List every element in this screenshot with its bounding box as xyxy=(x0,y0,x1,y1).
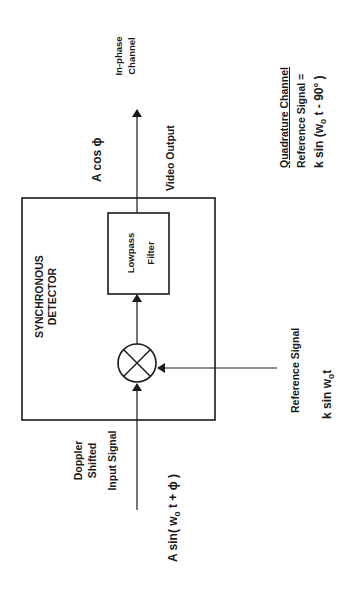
filter-label-line2: Filter xyxy=(141,225,161,281)
reference-formula-sub: o xyxy=(326,374,336,379)
quadrature-formula-sub: o xyxy=(318,119,328,124)
mixer-icon xyxy=(118,344,156,382)
video-output-label: Video Output xyxy=(164,125,177,191)
in-phase-channel-label: In-phase Channel xyxy=(112,30,138,82)
output-formula-text: A cos ϕ xyxy=(90,137,104,182)
output-formula: A cos ϕ xyxy=(90,137,105,182)
reference-signal-label: Reference Signal xyxy=(289,328,302,413)
input-signal-label: Doppler Shifted Input Signal xyxy=(71,403,119,518)
in-phase-line1: In-phase xyxy=(112,30,125,82)
quadrature-reference-line: Reference Signal = xyxy=(293,67,310,168)
reference-signal-text: Reference Signal xyxy=(289,328,301,413)
input-formula-sub: o xyxy=(172,511,182,516)
quadrature-channel-block: Quadrature Channel Reference Signal = k … xyxy=(276,67,332,168)
reference-formula: k sin wot xyxy=(320,370,336,419)
input-label-line3: Input Signal xyxy=(105,403,119,518)
quadrature-formula: k sin (wo t - 90° ) xyxy=(311,67,332,168)
quadrature-title: Quadrature Channel xyxy=(276,67,293,168)
input-label-line1: Doppler xyxy=(71,403,85,518)
video-output-text: Video Output xyxy=(164,125,176,191)
reference-formula-suffix: t xyxy=(320,370,334,374)
quadrature-formula-suffix: t - 90° ) xyxy=(312,75,326,118)
quadrature-formula-prefix: k sin (w xyxy=(312,124,326,168)
input-formula-suffix: t + ϕ ) xyxy=(166,474,180,511)
reference-formula-prefix: k sin w xyxy=(320,379,334,419)
input-formula-prefix: A sin( w xyxy=(166,516,180,562)
detector-title-line2: DETECTOR xyxy=(46,255,59,338)
filter-label: Lowpass Filter xyxy=(121,225,161,281)
detector-title: SYNCHRONOUS DETECTOR xyxy=(33,255,59,338)
filter-label-line1: Lowpass xyxy=(121,225,141,281)
input-signal-formula: A sin( wo t + ϕ ) xyxy=(166,474,182,562)
detector-title-line1: SYNCHRONOUS xyxy=(33,255,46,338)
input-label-line2: Shifted xyxy=(85,403,99,518)
in-phase-line2: Channel xyxy=(125,30,138,82)
